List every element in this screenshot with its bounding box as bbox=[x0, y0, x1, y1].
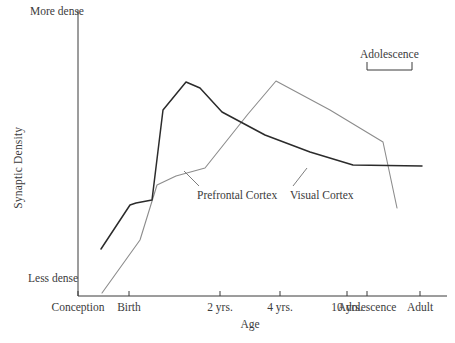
y-axis-title-text: Synaptic Density bbox=[12, 127, 26, 209]
y-axis-title: Synaptic Density bbox=[4, 108, 34, 228]
y-axis-bottom-label: Less dense bbox=[28, 272, 74, 286]
leader-line-prefrontal bbox=[184, 171, 199, 186]
x-tick-label-2yrs: 2 yrs. bbox=[196, 301, 244, 315]
x-tick-label-birth: Birth bbox=[105, 301, 153, 315]
x-axis-ticks bbox=[78, 291, 420, 296]
adolescence-bracket bbox=[367, 62, 412, 70]
synaptic-density-chart: Synaptic Density More dense Less dense A… bbox=[0, 0, 455, 343]
x-axis-title: Age bbox=[222, 318, 278, 332]
x-tick-label-adult: Adult bbox=[400, 301, 440, 315]
series-line-visual-cortex bbox=[102, 81, 397, 293]
x-tick-label-adolescence: Adolescence bbox=[329, 301, 405, 315]
series-label-visual-cortex: Visual Cortex bbox=[290, 189, 354, 203]
x-tick-label-4yrs: 4 yrs. bbox=[256, 301, 304, 315]
y-axis-top-label: More dense bbox=[30, 5, 74, 19]
adolescence-bracket-label: Adolescence bbox=[360, 48, 419, 62]
leader-line-visual bbox=[293, 168, 307, 186]
series-label-prefrontal-cortex: Prefrontal Cortex bbox=[197, 189, 277, 203]
series-line-prefrontal-cortex bbox=[101, 82, 422, 249]
